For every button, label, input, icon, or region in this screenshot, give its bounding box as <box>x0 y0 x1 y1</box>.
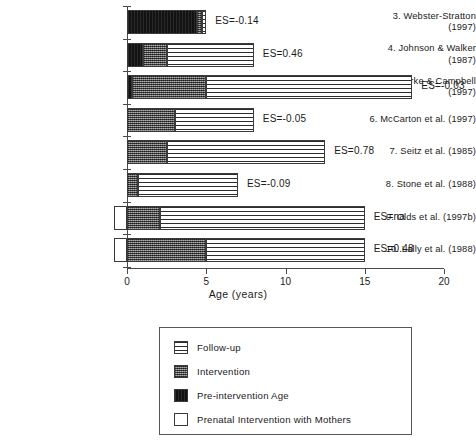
bar-segment-intervention[interactable] <box>127 206 160 230</box>
x-axis-tick <box>127 269 128 274</box>
bar-segment-followup[interactable] <box>138 173 238 197</box>
x-axis-tick-label: 0 <box>124 276 130 287</box>
bar-segment-prenatal[interactable] <box>114 206 127 230</box>
bar-segment-intervention[interactable] <box>127 238 206 262</box>
bar-segment-followup[interactable] <box>160 206 364 230</box>
legend-swatch-prenatal-icon <box>174 413 188 426</box>
legend-item-followup[interactable]: Follow-up <box>174 341 241 354</box>
bar-segment-followup[interactable] <box>167 43 254 67</box>
bar-row[interactable] <box>0 75 476 99</box>
x-axis-tick <box>286 269 287 274</box>
bar-row[interactable] <box>0 43 476 67</box>
bar-segment-followup[interactable] <box>206 238 365 262</box>
effect-size-label: ES=-0.03 <box>421 80 465 91</box>
legend-swatch-followup-icon <box>174 341 188 354</box>
x-axis-tick-label: 20 <box>438 276 449 287</box>
x-axis-tick-label: 5 <box>203 276 209 287</box>
effect-size-label: ES=na <box>374 211 405 222</box>
bar-segment-followup[interactable] <box>175 108 254 132</box>
legend-swatch-preintervention-icon <box>174 389 188 402</box>
effect-size-label: ES=0.48 <box>374 243 414 254</box>
x-axis-title: Age (years) <box>0 288 476 300</box>
bar-segment-followup[interactable] <box>206 75 412 99</box>
effect-size-label: ES=-0.09 <box>247 178 291 189</box>
effect-size-label: ES=-0.05 <box>263 113 307 124</box>
effect-size-label: ES=-0.14 <box>215 15 259 26</box>
bar-segment-intervention[interactable] <box>143 43 167 67</box>
legend-label: Prenatal Intervention with Mothers <box>197 414 351 425</box>
bar-segment-intervention[interactable] <box>127 140 167 164</box>
x-axis-tick <box>206 269 207 274</box>
x-axis-tick <box>444 269 445 274</box>
bar-segment-preintervention[interactable] <box>127 43 143 67</box>
bar-row[interactable] <box>0 108 476 132</box>
chart-root: 3. Webster-Stratton(1997)4. Johnson & Wa… <box>0 0 476 445</box>
effect-size-label: ES=0.78 <box>334 145 374 156</box>
bar-segment-preintervention[interactable] <box>127 10 197 34</box>
x-axis-tick-label: 15 <box>359 276 370 287</box>
x-axis-tick <box>365 269 366 274</box>
legend-item-intervention[interactable]: Intervention <box>174 365 250 378</box>
legend-label: Intervention <box>197 366 250 377</box>
legend-label: Pre-intervention Age <box>197 390 289 401</box>
bar-segment-followup[interactable] <box>167 140 326 164</box>
legend-item-preintervention[interactable]: Pre-intervention Age <box>174 389 289 402</box>
bar-segment-prenatal[interactable] <box>114 238 127 262</box>
bar-row[interactable] <box>0 140 476 164</box>
legend-item-prenatal[interactable]: Prenatal Intervention with Mothers <box>174 413 351 426</box>
bar-row[interactable] <box>0 173 476 197</box>
chart-legend: Follow-upInterventionPre-intervention Ag… <box>159 327 412 435</box>
bar-segment-followup[interactable] <box>202 10 206 34</box>
x-axis-tick-label: 10 <box>280 276 291 287</box>
legend-label: Follow-up <box>197 342 241 353</box>
effect-size-label: ES=0.46 <box>263 48 303 59</box>
legend-swatch-intervention-icon <box>174 365 188 378</box>
bar-segment-intervention[interactable] <box>127 173 138 197</box>
bar-segment-intervention[interactable] <box>132 75 206 99</box>
bar-segment-intervention[interactable] <box>127 108 175 132</box>
